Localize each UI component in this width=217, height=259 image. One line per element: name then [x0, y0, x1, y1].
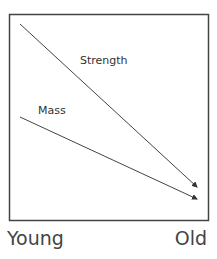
x-axis-left-label: Young — [7, 227, 64, 249]
mass-label: Mass — [38, 104, 66, 117]
plot-frame — [10, 15, 209, 221]
strength-label: Strength — [80, 54, 128, 67]
x-axis-right-label: Old — [175, 227, 207, 249]
diagram-canvas — [0, 0, 217, 259]
mass-line — [20, 117, 197, 199]
